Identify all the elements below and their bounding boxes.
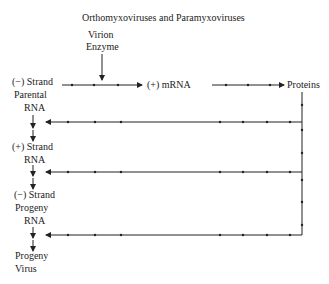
pathway-arrows	[0, 0, 329, 284]
